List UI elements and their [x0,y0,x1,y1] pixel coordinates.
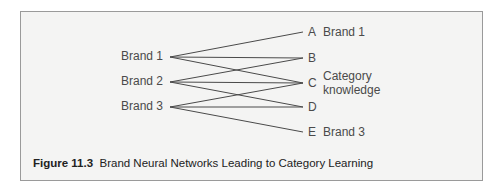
network-edges [170,32,303,132]
node-c-description-line1: Category [323,70,372,83]
node-c-description-line2: knowledge [323,84,380,97]
node-b-label: B [308,52,320,65]
brand-1-label: Brand 1 [103,50,163,63]
brand-3-label: Brand 3 [103,100,163,113]
node-d-label: D [308,101,320,114]
edge-b2-B [170,58,303,82]
edge-b2-C [170,82,303,83]
node-a-description: Brand 1 [323,26,365,39]
figure-title: Brand Neural Networks Leading to Categor… [99,157,373,169]
node-a-label: A [308,26,320,39]
node-e-label: E [308,126,320,139]
edge-b3-E [170,107,303,132]
figure-caption: Figure 11.3 Brand Neural Networks Leadin… [33,157,373,169]
edge-b1-B [170,57,303,58]
edge-b1-A [170,32,303,57]
node-e-description: Brand 3 [323,126,365,139]
brand-2-label: Brand 2 [103,75,163,88]
node-c-label: C [308,77,320,90]
figure-number: Figure 11.3 [33,157,93,169]
